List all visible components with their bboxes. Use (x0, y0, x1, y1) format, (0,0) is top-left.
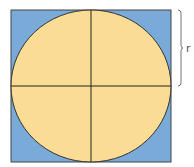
radius-label: r (186, 42, 191, 55)
radius-bracket (178, 10, 183, 86)
circle-in-square-diagram: r (0, 0, 194, 167)
